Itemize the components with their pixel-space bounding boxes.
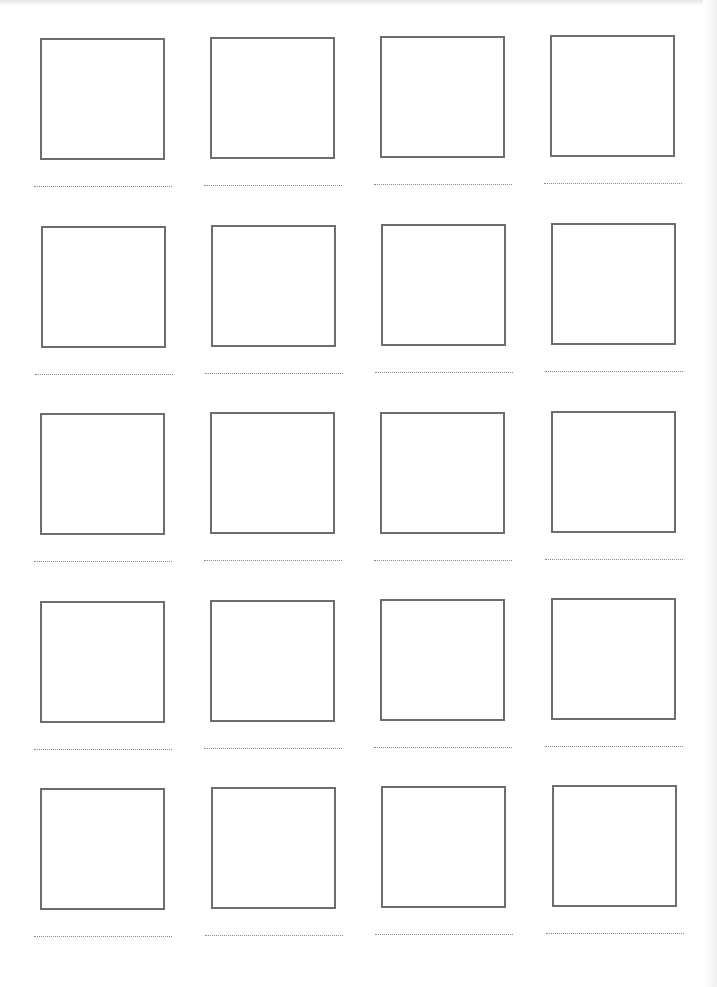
answer-line <box>205 935 343 936</box>
answer-line <box>35 374 173 375</box>
drawing-box <box>40 38 165 160</box>
worksheet-cell <box>41 226 181 386</box>
drawing-box <box>552 785 677 907</box>
worksheet-cell <box>380 412 520 572</box>
drawing-box <box>551 411 676 533</box>
answer-line <box>374 560 512 561</box>
worksheet-cell <box>210 412 350 572</box>
worksheet-cell <box>40 38 180 198</box>
answer-line <box>204 560 342 561</box>
answer-line <box>375 934 513 935</box>
drawing-box <box>551 223 676 345</box>
scan-right-edge <box>703 0 717 987</box>
worksheet-cell <box>210 600 350 760</box>
answer-line <box>545 746 683 747</box>
scan-top-edge <box>0 0 717 6</box>
drawing-box <box>40 601 165 723</box>
answer-line <box>34 749 172 750</box>
drawing-box <box>550 35 675 157</box>
answer-line <box>205 373 343 374</box>
drawing-box <box>551 598 676 720</box>
answer-line <box>204 748 342 749</box>
drawing-box <box>40 788 165 910</box>
answer-line <box>204 185 342 186</box>
worksheet-cell <box>381 786 521 946</box>
drawing-box <box>210 600 335 722</box>
worksheet-cell <box>380 36 520 196</box>
answer-line <box>544 183 682 184</box>
worksheet-cell <box>380 599 520 759</box>
answer-line <box>545 559 683 560</box>
worksheet-cell <box>551 411 691 571</box>
answer-line <box>374 747 512 748</box>
drawing-box <box>211 225 336 347</box>
worksheet-cell <box>550 35 690 195</box>
worksheet-cell <box>40 788 180 948</box>
drawing-box <box>211 787 336 909</box>
worksheet-cell <box>211 787 351 947</box>
drawing-box <box>381 786 506 908</box>
drawing-box <box>41 226 166 348</box>
drawing-box <box>40 413 165 535</box>
answer-line <box>34 936 172 937</box>
drawing-box <box>380 599 505 721</box>
worksheet-cell <box>40 601 180 761</box>
drawing-box <box>210 37 335 159</box>
drawing-box <box>380 412 505 534</box>
drawing-box <box>380 36 505 158</box>
answer-line <box>34 186 172 187</box>
answer-line <box>374 184 512 185</box>
worksheet-cell <box>551 598 691 758</box>
worksheet-cell <box>40 413 180 573</box>
answer-line <box>375 372 513 373</box>
worksheet-cell <box>210 37 350 197</box>
answer-line <box>34 561 172 562</box>
worksheet-cell <box>211 225 351 385</box>
worksheet-cell <box>381 224 521 384</box>
worksheet-cell <box>552 785 692 945</box>
drawing-box <box>210 412 335 534</box>
answer-line <box>545 371 683 372</box>
drawing-box <box>381 224 506 346</box>
worksheet-cell <box>551 223 691 383</box>
answer-line <box>546 933 684 934</box>
